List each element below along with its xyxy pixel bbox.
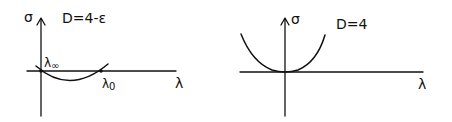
sigma-axis-label: σ (291, 11, 300, 27)
fixed-point-lambda-infinity (39, 69, 43, 73)
panel-d-4: σ D=4 λ (240, 11, 426, 116)
parabola-curve (241, 34, 325, 72)
sigma-axis-label: σ (24, 9, 33, 25)
panel-d-4-minus-epsilon: σ D=4-ε λ λ ∞ λ 0 (24, 9, 183, 116)
panel-title: D=4-ε (62, 10, 106, 26)
lambda-axis-label: λ (418, 76, 426, 92)
svg-text:0: 0 (109, 81, 115, 92)
fixed-point-lambda-zero (99, 69, 103, 73)
lambda-zero-label: λ 0 (102, 77, 115, 92)
panel-title: D=4 (336, 16, 368, 32)
lambda-infinity-label: λ ∞ (44, 56, 59, 71)
svg-text:∞: ∞ (51, 60, 59, 71)
diagram-canvas: σ D=4-ε λ λ ∞ λ 0 σ D=4 λ (0, 0, 452, 122)
lambda-axis-label: λ (175, 75, 183, 91)
